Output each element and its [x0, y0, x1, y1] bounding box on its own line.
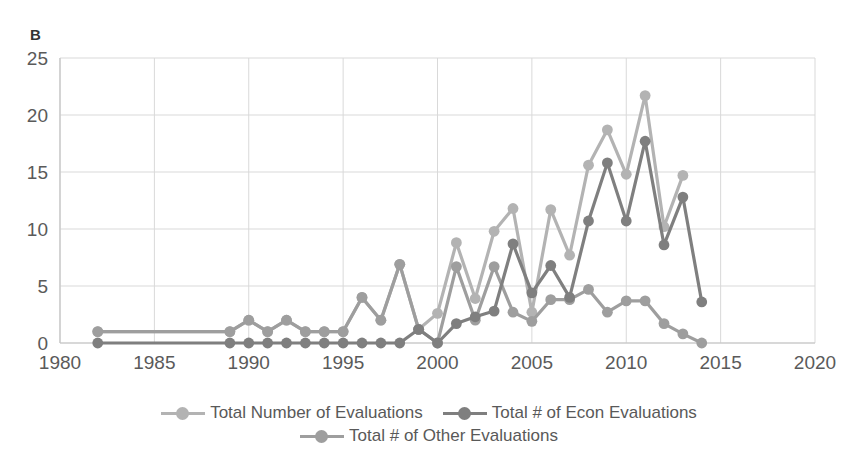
data-point — [677, 192, 688, 203]
line-marker-icon — [300, 429, 344, 443]
data-point — [432, 308, 443, 319]
x-tick-label: 2015 — [699, 352, 741, 373]
x-tick-label: 2020 — [794, 352, 836, 373]
data-point — [262, 338, 273, 349]
x-tick-label: 1990 — [228, 352, 270, 373]
data-point — [451, 237, 462, 248]
data-point — [583, 284, 594, 295]
data-point — [92, 338, 103, 349]
data-point — [413, 324, 424, 335]
series-line — [98, 264, 702, 343]
data-point — [489, 306, 500, 317]
data-point — [640, 295, 651, 306]
data-point — [621, 295, 632, 306]
y-tick-label: 0 — [37, 333, 48, 354]
y-tick-label: 5 — [37, 276, 48, 297]
data-point — [489, 261, 500, 272]
line-chart: 0510152025198019851990199520002005201020… — [0, 0, 858, 400]
data-point — [583, 216, 594, 227]
data-point — [281, 315, 292, 326]
x-tick-label: 2010 — [605, 352, 647, 373]
legend-item-total-number[interactable]: Total Number of Evaluations — [161, 404, 423, 421]
series-other — [92, 259, 707, 348]
data-point — [224, 326, 235, 337]
x-tick-label: 1985 — [133, 352, 175, 373]
y-tick-label: 20 — [27, 105, 48, 126]
legend-row-1: Total Number of Evaluations Total # of E… — [0, 404, 858, 421]
x-tick-label: 1995 — [322, 352, 364, 373]
data-point — [621, 169, 632, 180]
data-point — [621, 216, 632, 227]
line-marker-icon — [161, 406, 205, 420]
data-point — [489, 226, 500, 237]
data-point — [640, 136, 651, 147]
data-point — [319, 338, 330, 349]
data-point — [319, 326, 330, 337]
data-point — [677, 170, 688, 181]
line-marker-icon — [443, 406, 487, 420]
data-point — [375, 338, 386, 349]
data-point — [545, 204, 556, 215]
data-point — [338, 326, 349, 337]
x-tick-label: 2005 — [511, 352, 553, 373]
data-point — [451, 261, 462, 272]
data-point — [659, 240, 670, 251]
data-point — [394, 259, 405, 270]
series-econ — [92, 136, 707, 349]
data-point — [470, 311, 481, 322]
legend-label-other: Total # of Other Evaluations — [349, 427, 558, 444]
data-point — [526, 287, 537, 298]
data-point — [451, 318, 462, 329]
y-tick-label: 15 — [27, 162, 48, 183]
data-point — [357, 338, 368, 349]
data-point — [243, 315, 254, 326]
data-point — [696, 297, 707, 308]
data-point — [677, 328, 688, 339]
data-point — [602, 307, 613, 318]
data-point — [470, 293, 481, 304]
data-point — [583, 160, 594, 171]
data-point — [432, 338, 443, 349]
legend-label-total-number: Total Number of Evaluations — [210, 404, 423, 421]
chart-panel: B 05101520251980198519901995200020052010… — [0, 0, 858, 472]
data-point — [640, 90, 651, 101]
data-point — [602, 124, 613, 135]
legend-item-other[interactable]: Total # of Other Evaluations — [300, 427, 558, 444]
data-point — [564, 292, 575, 303]
data-point — [564, 250, 575, 261]
data-point — [545, 294, 556, 305]
data-point — [545, 260, 556, 271]
chart-legend: Total Number of Evaluations Total # of E… — [0, 398, 858, 472]
legend-label-econ: Total # of Econ Evaluations — [492, 404, 697, 421]
data-point — [243, 338, 254, 349]
data-point — [281, 338, 292, 349]
data-point — [262, 326, 273, 337]
y-tick-label: 10 — [27, 219, 48, 240]
legend-item-econ[interactable]: Total # of Econ Evaluations — [443, 404, 697, 421]
x-tick-label: 2000 — [416, 352, 458, 373]
plot-area: 0510152025198019851990199520002005201020… — [0, 0, 858, 400]
data-point — [224, 338, 235, 349]
data-point — [526, 316, 537, 327]
data-point — [659, 318, 670, 329]
data-point — [357, 292, 368, 303]
data-point — [338, 338, 349, 349]
legend-row-2: Total # of Other Evaluations — [0, 427, 858, 444]
x-tick-label: 1980 — [39, 352, 81, 373]
data-point — [696, 338, 707, 349]
data-point — [300, 338, 311, 349]
data-point — [394, 338, 405, 349]
data-point — [508, 203, 519, 214]
data-point — [300, 326, 311, 337]
data-point — [375, 315, 386, 326]
data-point — [602, 157, 613, 168]
y-tick-label: 25 — [27, 48, 48, 69]
data-point — [508, 307, 519, 318]
data-point — [92, 326, 103, 337]
data-point — [508, 238, 519, 249]
